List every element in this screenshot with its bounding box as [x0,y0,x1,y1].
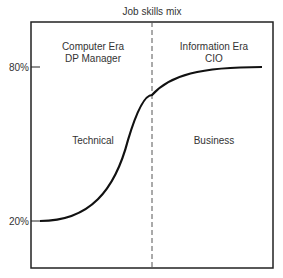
y-label-80: 80% [9,62,29,73]
technical-label: Technical [72,135,114,146]
chart-title: Job skills mix [123,6,182,17]
right-era-label: Information Era [180,41,249,52]
right-role-label: CIO [205,53,223,64]
chart: Job skills mix 80% 20% Computer Era DP M… [0,0,283,278]
left-role-label: DP Manager [65,53,122,64]
y-label-20: 20% [9,216,29,227]
left-era-label: Computer Era [62,41,125,52]
business-label: Business [194,135,235,146]
